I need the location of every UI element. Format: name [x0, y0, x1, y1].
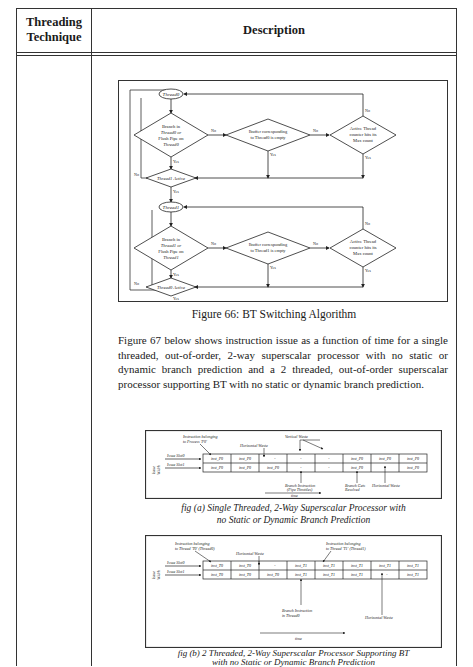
svg-text:inst_T1: inst_T1 [407, 563, 419, 568]
caption-line: no Static or Dynamic Branch Prediction [145, 514, 442, 526]
svg-text:inst_P0: inst_P0 [239, 465, 251, 470]
svg-text:Yes: Yes [173, 272, 179, 277]
svg-text:-: - [386, 572, 388, 577]
svg-text:time: time [291, 493, 298, 498]
svg-text:-: - [274, 456, 276, 461]
svg-text:Branch in: Branch in [162, 237, 181, 242]
svg-text:-: - [300, 456, 302, 461]
svg-text:Active Thread: Active Thread [350, 239, 377, 244]
svg-text:Width: Width [156, 465, 161, 474]
svg-text:Yes: Yes [173, 189, 179, 194]
svg-text:Yes: Yes [173, 296, 179, 301]
svg-text:Yes: Yes [270, 265, 276, 270]
svg-text:Thread1: Thread1 [163, 255, 178, 260]
figure-66-caption: Figure 66: BT Switching Algorithm [92, 308, 456, 320]
figure-67b-caption: fig (b) 2 Threaded, 2-Way Superscalar Pr… [145, 649, 442, 667]
svg-text:Horizontal Waste: Horizontal Waste [371, 483, 400, 488]
svg-text:inst_T1: inst_T1 [323, 563, 335, 568]
svg-text:Issue Slot1: Issue Slot1 [166, 462, 184, 467]
svg-text:Thread1 or: Thread1 or [161, 243, 182, 248]
svg-text:inst_P0: inst_P0 [211, 456, 223, 461]
svg-text:to Thread0 is empty: to Thread0 is empty [250, 135, 286, 140]
svg-text:Thread1 Active: Thread1 Active [157, 176, 185, 181]
svg-text:inst_T1: inst_T1 [379, 563, 391, 568]
svg-text:Yes: Yes [365, 268, 371, 273]
svg-text:inst_T0: inst_T0 [211, 572, 223, 577]
svg-text:inst_T1: inst_T1 [351, 563, 363, 568]
svg-text:inst_P0: inst_P0 [211, 465, 223, 470]
svg-text:inst_T1: inst_T1 [407, 572, 419, 577]
svg-text:No: No [365, 108, 370, 113]
svg-text:(Pipe Throttles): (Pipe Throttles) [287, 487, 313, 492]
figure-67b-diagram: Instruction belonging to Thread 'T0' (Th… [145, 535, 442, 648]
figure-66-flowchart: Thread0 Branch in Thread0 or Flush Pipe … [118, 80, 448, 302]
svg-text:Branch in: Branch in [162, 124, 181, 129]
table-top-border [16, 8, 457, 9]
header-threading-technique: Threading Technique [17, 15, 91, 45]
svg-text:Issue Slot1: Issue Slot1 [166, 569, 184, 574]
svg-text:Max count: Max count [353, 138, 373, 143]
svg-text:No: No [313, 241, 318, 246]
svg-text:-: - [274, 563, 276, 568]
svg-text:Horizontal Waste: Horizontal Waste [239, 443, 268, 448]
figure-67a-caption: fig (a) Single Threaded, 2-Way Superscal… [145, 502, 442, 526]
svg-text:to Process 'P0': to Process 'P0' [183, 439, 207, 444]
svg-text:Width: Width [156, 570, 161, 579]
svg-text:No: No [365, 221, 370, 226]
svg-text:Ibuffer corresponding: Ibuffer corresponding [249, 242, 288, 247]
header-description: Description [92, 23, 456, 38]
svg-text:No: No [134, 172, 139, 177]
svg-text:to Thread 'T1' (Thread1): to Thread 'T1' (Thread1) [326, 546, 366, 551]
svg-text:-: - [300, 465, 302, 470]
svg-text:inst_T0: inst_T0 [267, 572, 279, 577]
svg-text:-: - [384, 465, 386, 470]
svg-text:Issue Slot0: Issue Slot0 [166, 453, 184, 458]
svg-text:Thread0 Active: Thread0 Active [157, 285, 185, 290]
thread0-node: Thread0 [163, 92, 180, 97]
svg-text:Active Thread: Active Thread [350, 126, 377, 131]
svg-text:Thread0: Thread0 [163, 142, 179, 147]
thread1-node: Thread1 [163, 205, 180, 210]
svg-text:inst_P0: inst_P0 [267, 465, 279, 470]
svg-text:to Thread 'T0' (Thread0): to Thread 'T0' (Thread0) [175, 546, 215, 551]
svg-text:No: No [313, 128, 318, 133]
svg-text:time: time [295, 636, 302, 641]
svg-text:to Thread1 is empty: to Thread1 is empty [250, 248, 286, 253]
header-divider-2 [16, 55, 457, 56]
figure-67a-diagram: Instruction belonging to Process 'P0' Ve… [145, 430, 442, 499]
table-right-border [456, 8, 457, 666]
svg-text:No: No [134, 281, 139, 286]
svg-text:Ibuffer corresponding: Ibuffer corresponding [249, 129, 288, 134]
svg-text:Resolved: Resolved [344, 487, 360, 492]
svg-text:Flush Pipe on: Flush Pipe on [158, 136, 184, 141]
svg-text:Thread0 or: Thread0 or [161, 130, 182, 135]
svg-text:inst_P0: inst_P0 [239, 456, 251, 461]
svg-text:inst_T1: inst_T1 [295, 563, 307, 568]
svg-text:Issue Slot0: Issue Slot0 [166, 560, 184, 565]
svg-text:Vertical Waste: Vertical Waste [285, 434, 308, 439]
svg-text:Flush Pipe on: Flush Pipe on [158, 249, 184, 254]
header-divider-1 [16, 52, 457, 53]
svg-text:inst_P0: inst_P0 [351, 456, 363, 461]
svg-text:inst_T1: inst_T1 [295, 572, 307, 577]
svg-text:-: - [328, 465, 330, 470]
svg-text:counter hits its: counter hits its [349, 132, 376, 137]
svg-text:inst_P0: inst_P0 [407, 465, 419, 470]
svg-text:inst_P0: inst_P0 [379, 456, 391, 461]
svg-text:in Thread0: in Thread0 [282, 613, 300, 618]
description-paragraph: Figure 67 below shows instruction issue … [118, 333, 448, 391]
table-left-border [16, 8, 17, 666]
svg-text:Yes: Yes [173, 159, 179, 164]
svg-text:inst_T1: inst_T1 [323, 572, 335, 577]
svg-text:counter hits its: counter hits its [349, 245, 376, 250]
svg-text:inst_T1: inst_T1 [351, 572, 363, 577]
svg-text:No: No [211, 128, 216, 133]
svg-text:inst_T0: inst_T0 [211, 563, 223, 568]
caption-line: fig (a) Single Threaded, 2-Way Superscal… [145, 502, 442, 514]
svg-text:Max count: Max count [353, 251, 373, 256]
svg-text:inst_T0: inst_T0 [239, 563, 251, 568]
table-column-divider [91, 8, 92, 666]
svg-text:Yes: Yes [365, 155, 371, 160]
svg-text:Horizontal Waste: Horizontal Waste [235, 551, 264, 556]
svg-text:inst_P0: inst_P0 [407, 456, 419, 461]
